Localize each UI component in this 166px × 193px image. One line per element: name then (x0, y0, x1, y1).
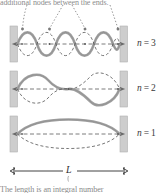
wall-right-n3 (120, 26, 128, 62)
mode-n1-graphic (10, 116, 128, 152)
mode-label-n1-equals: = (144, 128, 149, 138)
wave-solid-n2 (18, 75, 120, 105)
wave-dashed-n1 (18, 134, 120, 149)
mode-n3-graphic (10, 26, 128, 62)
mode-label-n1: n=1 (137, 128, 156, 138)
mode-label-n3-equals: = (144, 38, 149, 48)
wall-right-n1 (120, 116, 128, 152)
mode-label-n1-value: 1 (151, 128, 156, 138)
mode-label-n2-equals: = (144, 83, 149, 93)
annotation-arrows (23, 5, 119, 29)
mode-n2-graphic (10, 71, 128, 107)
mode-label-n2-value: 2 (151, 83, 156, 93)
figure-graphics (0, 0, 166, 193)
wave-solid-n1 (18, 120, 120, 135)
wall-right-n2 (120, 71, 128, 107)
mode-label-n1-symbol: n (137, 128, 142, 138)
mode-label-n2: n=2 (137, 83, 156, 93)
mode-label-n3-symbol: n (137, 38, 142, 48)
mode-label-n3-value: 3 (151, 38, 156, 48)
mode-label-n3: n=3 (137, 38, 156, 48)
length-label: L (66, 164, 72, 175)
standing-wave-figure: additional nodes between the ends. (0, 0, 166, 193)
mode-label-n2-symbol: n (137, 83, 142, 93)
figure-bottom-caption: The length is an integral number (0, 185, 166, 193)
